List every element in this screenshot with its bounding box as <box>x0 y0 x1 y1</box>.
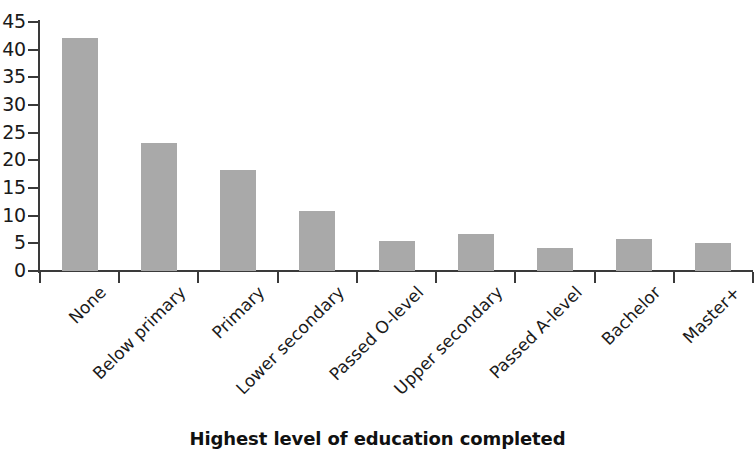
x-axis-tick <box>514 272 516 283</box>
x-axis-tick <box>594 272 596 283</box>
x-axis-tick <box>673 272 675 283</box>
x-axis-tick <box>197 272 199 283</box>
x-axis-title: Highest level of education completed <box>0 428 755 449</box>
x-axis-tick-label: None <box>66 283 109 326</box>
x-axis-tick-label: Primary <box>210 283 268 341</box>
bar <box>695 243 731 271</box>
bars-layer <box>0 0 755 271</box>
plot-area: 051015202530354045 NoneBelow primaryPrim… <box>0 0 755 300</box>
bar <box>299 211 335 271</box>
bar <box>62 38 98 272</box>
bar <box>616 239 652 271</box>
bar <box>379 241 415 271</box>
bar <box>458 234 494 271</box>
x-axis-tick <box>118 272 120 283</box>
bar-chart: 051015202530354045 NoneBelow primaryPrim… <box>0 0 755 456</box>
x-axis-tick-label: Master+ <box>680 283 743 346</box>
x-axis-tick <box>356 272 358 283</box>
x-axis-tick-label: Bachelor <box>599 283 664 348</box>
x-axis-tick <box>277 272 279 283</box>
bar <box>537 248 573 271</box>
bar <box>141 143 177 271</box>
x-axis-tick <box>752 272 754 283</box>
bar <box>220 170 256 271</box>
x-axis-tick <box>435 272 437 283</box>
x-axis-tick <box>39 272 41 283</box>
